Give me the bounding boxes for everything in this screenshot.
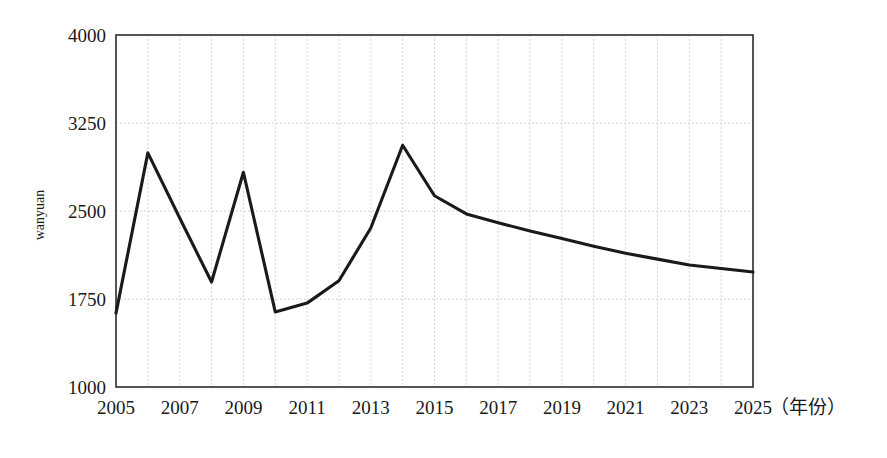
y-tick-label-2500: 2500 <box>68 201 106 222</box>
x-tick-label-2015: 2015 <box>416 397 454 418</box>
x-tick-label-2009: 2009 <box>224 397 262 418</box>
y-tick-label-3250: 3250 <box>68 113 106 134</box>
x-tick-label-2021: 2021 <box>607 397 645 418</box>
line-chart-figure: 10001750250032504000 2005200720092011201… <box>0 0 887 458</box>
x-axis-unit-label: （年份） <box>770 397 846 418</box>
x-tick-label-2013: 2013 <box>352 397 390 418</box>
x-tick-label-2019: 2019 <box>543 397 581 418</box>
x-tick-label-2023: 2023 <box>670 397 708 418</box>
x-tick-label-2007: 2007 <box>161 397 199 418</box>
chart-canvas: 10001750250032504000 2005200720092011201… <box>0 0 887 458</box>
y-axis-title: wanyuan <box>32 190 47 241</box>
x-axis-tick-labels-group: 2005200720092011201320152017201920212023… <box>97 397 772 418</box>
y-tick-label-1000: 1000 <box>68 377 106 398</box>
y-tick-label-4000: 4000 <box>68 25 106 46</box>
x-tick-label-2017: 2017 <box>479 397 517 418</box>
x-tick-label-2025: 2025 <box>734 397 772 418</box>
x-tick-label-2005: 2005 <box>97 397 135 418</box>
x-tick-label-2011: 2011 <box>288 397 325 418</box>
y-tick-label-1750: 1750 <box>68 289 106 310</box>
